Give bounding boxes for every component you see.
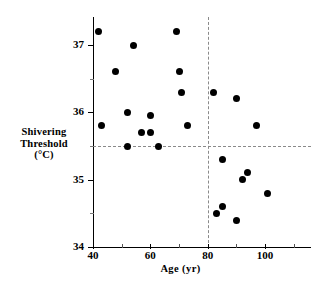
data-point — [213, 210, 220, 217]
data-point — [98, 122, 105, 129]
data-point — [239, 176, 246, 183]
data-point — [112, 68, 119, 75]
data-point — [176, 68, 183, 75]
data-point — [253, 122, 260, 129]
data-point — [130, 42, 137, 49]
data-point — [138, 129, 145, 136]
data-point — [155, 143, 162, 150]
data-point — [124, 143, 131, 150]
data-point — [95, 28, 102, 35]
data-point — [178, 89, 185, 96]
data-point — [147, 129, 154, 136]
data-point — [233, 217, 240, 224]
data-point — [219, 156, 226, 163]
data-point — [244, 169, 251, 176]
data-point — [264, 190, 271, 197]
data-point — [173, 28, 180, 35]
data-point — [219, 203, 226, 210]
data-point — [233, 95, 240, 102]
scatter-plot-figure: Shivering Threshold (°C) Age (yr) 343536… — [0, 0, 321, 288]
plot-data-area — [0, 0, 321, 288]
data-point — [124, 109, 131, 116]
data-point — [184, 122, 191, 129]
data-point — [210, 89, 217, 96]
data-point — [147, 112, 154, 119]
